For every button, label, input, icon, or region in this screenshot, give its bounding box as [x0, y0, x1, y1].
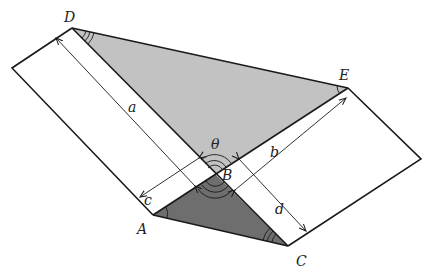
length-label-a: a — [128, 100, 136, 114]
point-label-d: D — [64, 10, 75, 24]
triangle-dbe — [72, 28, 348, 174]
length-label-d: d — [275, 202, 284, 216]
point-label-a: A — [137, 222, 147, 236]
angle-label-theta: θ — [211, 137, 219, 151]
geometry-diagram: D E B A C a b c d θ — [0, 0, 433, 272]
point-label-e: E — [339, 68, 349, 82]
length-label-b: b — [270, 145, 279, 159]
point-label-c: C — [296, 254, 307, 268]
length-label-c: c — [144, 193, 152, 207]
point-label-b: B — [222, 168, 232, 182]
